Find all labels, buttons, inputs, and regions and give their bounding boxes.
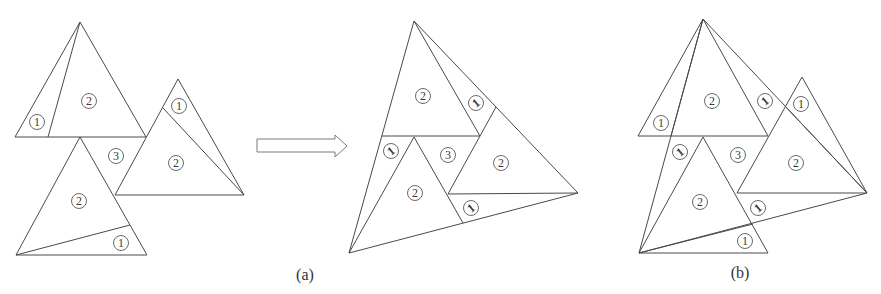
circled-number-label: 1	[29, 114, 45, 130]
label-text: 1	[674, 145, 686, 158]
label-text: 3	[735, 149, 741, 161]
right-right-triangle	[737, 77, 867, 193]
label-text: 1	[798, 98, 804, 110]
circled-number-label: 1	[737, 233, 753, 249]
caption-b: (b)	[731, 264, 750, 282]
right-figure	[638, 19, 867, 253]
circled-number-label: 2	[692, 194, 708, 210]
label-text: 2	[412, 187, 418, 199]
label-text: 1	[176, 100, 182, 112]
label-text: 1	[385, 144, 397, 157]
label-text: 2	[173, 157, 179, 169]
label-text: 1	[118, 237, 124, 249]
circled-number-label: 1	[672, 144, 688, 160]
circled-number-label: 2	[71, 193, 87, 209]
label-text: 2	[697, 196, 703, 208]
circled-number-label: 1	[750, 200, 766, 216]
circled-number-label: 1	[383, 143, 399, 159]
label-text: 1	[742, 235, 748, 247]
label-text: 2	[86, 95, 92, 107]
right-outer-right-edge	[703, 19, 867, 193]
middle-outer-triangle	[349, 21, 578, 253]
label-text: 2	[76, 195, 82, 207]
label-text: 3	[113, 150, 119, 162]
circled-number-label: 2	[415, 88, 431, 104]
circled-number-label: 2	[493, 155, 509, 171]
middle-right-base	[448, 193, 578, 194]
middle-top-right-edge	[414, 21, 480, 136]
caption-a: (a)	[296, 266, 314, 284]
label-text: 2	[709, 95, 715, 107]
left-top-split	[48, 22, 80, 137]
circled-number-label: 1	[463, 200, 479, 216]
middle-figure	[349, 21, 578, 253]
label-text: 3	[445, 149, 451, 161]
circled-number-label: 2	[81, 93, 97, 109]
middle-top-notch	[480, 107, 496, 136]
circled-number-label: 3	[440, 147, 456, 163]
diagram-lines	[0, 0, 881, 294]
circled-number-label: 1	[653, 115, 669, 131]
left-figure	[15, 22, 244, 255]
left-right-split	[163, 108, 244, 195]
circled-number-label: 2	[704, 93, 720, 109]
label-text: 1	[658, 117, 664, 129]
label-text: 2	[498, 157, 504, 169]
circled-number-label: 1	[113, 235, 129, 251]
circled-number-label: 1	[171, 98, 187, 114]
triangle-dissection-diagram: 123122121132211211132211 (a) (b)	[0, 0, 881, 294]
label-text: 1	[465, 201, 477, 214]
label-text: 2	[793, 157, 799, 169]
label-text: 1	[470, 96, 482, 109]
circled-number-label: 2	[407, 185, 423, 201]
circled-number-label: 1	[468, 95, 484, 111]
transform-arrow-icon	[257, 135, 347, 157]
circled-number-label: 3	[730, 147, 746, 163]
circled-number-label: 3	[108, 148, 124, 164]
middle-right-left-edge	[448, 136, 480, 194]
circled-number-label: 2	[788, 155, 804, 171]
circled-number-label: 1	[793, 96, 809, 112]
label-text: 1	[752, 201, 764, 214]
label-text: 2	[420, 90, 426, 102]
circled-number-label: 1	[757, 93, 773, 109]
circled-number-label: 2	[168, 155, 184, 171]
label-text: 1	[34, 116, 40, 128]
middle-bottom-left-edge	[349, 137, 414, 253]
label-text: 1	[759, 94, 771, 107]
